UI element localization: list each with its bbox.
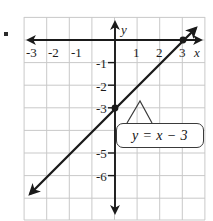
- y-tick-label--1: -1: [96, 57, 107, 70]
- x-tick-label--2: -2: [48, 46, 59, 59]
- y-tick-label--5: -5: [96, 147, 107, 160]
- equation-callout: y = x − 3: [116, 123, 204, 148]
- x-intercept-point: [180, 37, 187, 44]
- y-tick-label--6: -6: [96, 170, 107, 183]
- x-tick-label-3: 3: [179, 46, 186, 59]
- y-axis-ticks: [108, 63, 115, 176]
- equation-text: y = x − 3: [132, 128, 188, 144]
- callout-leader: [127, 101, 152, 123]
- x-tick-label--1: -1: [71, 46, 82, 59]
- y-axis-label: y: [121, 23, 127, 36]
- x-tick-label--3: -3: [26, 46, 37, 59]
- y-tick-label--3: -3: [96, 102, 107, 115]
- y-tick-label--2: -2: [96, 80, 107, 93]
- x-tick-label-2: 2: [156, 46, 163, 59]
- x-tick-label-1: 1: [133, 46, 140, 59]
- coordinate-plane-figure: -3 -2 -1 1 2 3 -1 -2 -3 -5 -6 y x y = x …: [0, 0, 213, 221]
- x-axis-label: x: [194, 46, 200, 59]
- y-intercept-point: [112, 105, 119, 112]
